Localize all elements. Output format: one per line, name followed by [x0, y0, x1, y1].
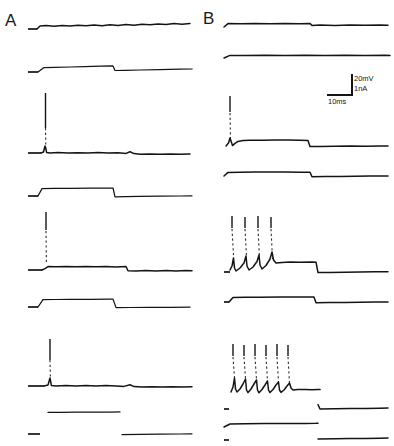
current-trace — [224, 172, 388, 177]
action-potential-spike-faint — [288, 357, 290, 383]
scale-bar-horizontal — [327, 94, 353, 96]
scale-label-time: 10ms — [328, 98, 346, 106]
current-trace — [38, 299, 190, 308]
panel-label-b: B — [203, 10, 214, 27]
current-trace — [224, 423, 318, 427]
recording-traces — [0, 0, 394, 446]
panel-a-block-4 — [28, 339, 192, 435]
action-potential-spike-faint — [277, 357, 279, 382]
voltage-trace — [44, 378, 192, 387]
action-potential-spike-faint — [266, 357, 268, 381]
figure-root: A B — [0, 0, 394, 446]
action-potential-spike-faint — [271, 229, 273, 259]
action-potential-spike-faint — [245, 229, 247, 257]
voltage-trace — [41, 146, 190, 154]
action-potential-spike-faint — [255, 357, 257, 380]
panel-a-traces — [28, 23, 192, 434]
current-trace — [38, 188, 192, 197]
current-trace-return — [122, 434, 192, 435]
scale-bar: 20mV 1nA 10ms — [327, 74, 389, 110]
voltage-trace — [42, 266, 192, 271]
voltage-trace — [226, 138, 388, 147]
voltage-trace — [224, 23, 388, 27]
action-potential-spike-faint — [244, 357, 246, 379]
current-trace — [229, 297, 388, 303]
panel-b-block-4 — [224, 344, 388, 440]
current-trace-return — [318, 405, 388, 409]
action-potential-spike-faint — [258, 229, 260, 258]
action-potential-spike-faint — [233, 357, 235, 378]
action-potential-spike-faint — [230, 113, 231, 138]
current-trace — [38, 66, 192, 72]
voltage-trace — [37, 23, 190, 29]
voltage-trace — [230, 252, 388, 273]
voltage-trace — [231, 378, 320, 393]
scale-label-current: 1nA — [354, 85, 367, 93]
panel-label-a: A — [5, 12, 16, 29]
panel-b-block-1 — [224, 23, 390, 58]
current-trace-lower-return — [318, 438, 388, 439]
panel-a-block-3 — [28, 212, 192, 308]
panel-a-block-1 — [28, 23, 192, 72]
current-trace — [48, 412, 120, 413]
panel-a-block-2 — [28, 93, 192, 197]
current-trace — [224, 55, 390, 58]
scale-bar-vertical — [351, 74, 353, 96]
action-potential-spike-faint — [232, 229, 234, 255]
panel-b-block-3 — [224, 216, 388, 303]
scale-label-voltage: 20mV — [354, 75, 374, 83]
